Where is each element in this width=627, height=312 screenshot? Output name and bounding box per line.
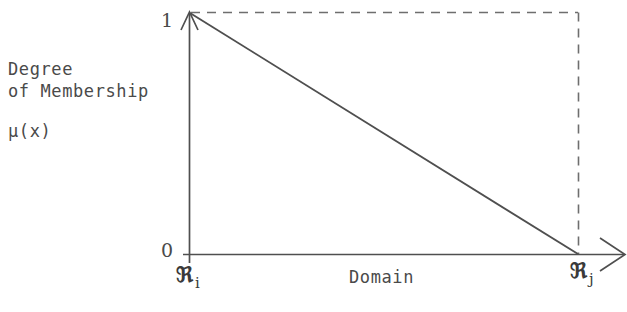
x-tick-label-left: ℜi: [176, 262, 200, 292]
y-axis-title-line1: Degree: [8, 59, 73, 79]
y-axis-title: Degreeof Membership: [8, 58, 149, 103]
fraktur-r-icon: ℜ: [176, 262, 193, 287]
membership-function-line: [190, 13, 578, 254]
x-axis-title: Domain: [349, 266, 414, 288]
x-tick-right-subscript: j: [587, 270, 594, 288]
y-axis-symbol-label: μ(x): [8, 120, 51, 142]
plot-canvas: [0, 0, 627, 312]
y-axis-title-line2: of Membership: [8, 81, 149, 101]
x-tick-left-subscript: i: [193, 274, 200, 292]
y-tick-label-1: 1: [161, 8, 173, 33]
membership-function-figure: Degreeof Membership μ(x) 1 0 Domain ℜi ℜ…: [0, 0, 627, 312]
fraktur-r-icon: ℜ: [570, 258, 587, 283]
x-tick-label-right: ℜj: [570, 258, 594, 288]
y-tick-label-0: 0: [161, 238, 173, 263]
